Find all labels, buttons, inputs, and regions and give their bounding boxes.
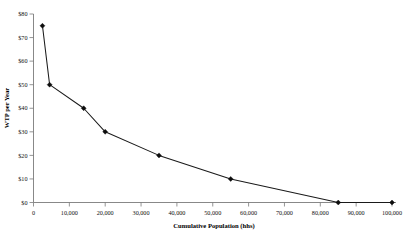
x-tick-label: 20,000 [97,209,114,216]
x-axis-group: 010,00020,00030,00040,00050,00060,00070,… [32,203,402,216]
y-tick-label: $60 [18,57,27,64]
x-tick-label: 100,000 [382,209,402,216]
series-markers-wtp [40,23,395,205]
line-chart-plot: $0$10$20$30$40$50$60$70$80 010,00020,000… [0,0,410,236]
x-tick-label: 80,000 [312,209,329,216]
series-line-wtp [42,26,392,203]
x-axis-tick-labels: 010,00020,00030,00040,00050,00060,00070,… [32,209,402,216]
x-tick-label: 10,000 [61,209,78,216]
x-tick-label: 50,000 [204,209,221,216]
y-axis-group: $0$10$20$30$40$50$60$70$80 [18,10,33,206]
data-point-marker [390,200,395,205]
x-tick-label: 90,000 [348,209,365,216]
y-axis-tick-labels: $0$10$20$30$40$50$60$70$80 [18,10,27,206]
x-axis-title: Cumulative Population (hhs) [173,222,254,230]
y-axis-title: WTP per Year [3,88,10,128]
x-tick-label: 0 [32,209,35,216]
y-tick-label: $10 [18,175,27,182]
x-tick-label: 40,000 [168,209,185,216]
x-tick-label: 70,000 [276,209,293,216]
y-axis-ticks [30,14,34,203]
data-point-marker [228,176,233,181]
data-point-marker [336,200,341,205]
data-point-marker [156,153,161,158]
x-tick-label: 30,000 [133,209,150,216]
y-tick-label: $70 [18,34,27,41]
y-tick-label: $40 [18,104,27,111]
y-tick-label: $50 [18,81,27,88]
x-tick-label: 60,000 [240,209,257,216]
y-tick-label: $30 [18,128,27,135]
data-series-group [40,23,395,205]
chart-container: $0$10$20$30$40$50$60$70$80 010,00020,000… [0,0,410,236]
y-tick-label: $20 [18,152,27,159]
y-tick-label: $80 [18,10,27,17]
data-point-marker [40,23,45,28]
y-tick-label: $0 [21,199,27,206]
